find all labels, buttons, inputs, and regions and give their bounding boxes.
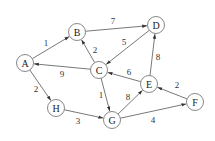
edge-d-to-c [106, 30, 149, 64]
node-label: B [74, 27, 81, 38]
edge-weight-label: 1 [44, 38, 49, 48]
edge-weight-label: 2 [93, 45, 98, 55]
edge-f-to-e [157, 87, 187, 99]
edge-weight-label: 6 [127, 67, 132, 77]
edge-weight-label: 7 [111, 16, 116, 26]
node-d: D [148, 17, 165, 34]
node-g: G [104, 112, 121, 129]
edge-weight-label: 8 [126, 92, 131, 102]
node-f: F [187, 94, 204, 111]
edge-weight-label: 8 [156, 52, 161, 62]
edge-weight-label: 1 [99, 90, 104, 100]
node-e: E [141, 76, 158, 93]
directed-weighted-graph: 1725968123824 ABCDEFGH [0, 0, 215, 141]
edge-weight-label: 3 [76, 116, 81, 126]
node-label: C [96, 65, 103, 76]
node-a: A [17, 55, 34, 72]
node-b: B [69, 24, 86, 41]
node-label: H [52, 103, 59, 114]
edge-weight-label: 4 [151, 115, 156, 125]
node-label: G [108, 115, 115, 126]
edge-weight-label: 2 [34, 84, 39, 94]
edge-weight-label: 5 [122, 37, 127, 47]
edge-e-to-d [150, 34, 155, 76]
node-label: F [192, 97, 198, 108]
edge-b-to-d [85, 26, 147, 31]
edge-g-to-e [118, 90, 142, 114]
node-label: E [146, 79, 152, 90]
node-c: C [91, 62, 108, 79]
nodes-layer: ABCDEFGH [17, 17, 204, 129]
node-label: A [21, 58, 29, 69]
node-label: D [152, 20, 159, 31]
node-h: H [48, 100, 65, 117]
edge-a-to-b [32, 37, 69, 59]
edge-e-to-c [108, 72, 141, 81]
edge-weight-label: 2 [175, 80, 180, 90]
edge-weight-label: 9 [60, 69, 65, 79]
edge-h-to-g [64, 110, 103, 118]
